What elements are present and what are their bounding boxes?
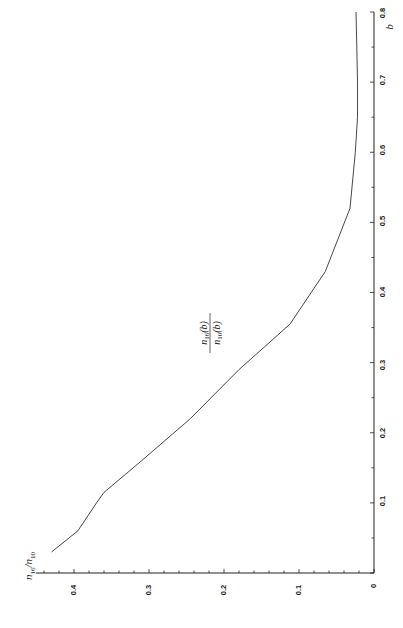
value-tick-label: 0.3 [144,585,153,595]
ratio-curve [52,12,358,552]
value-tick-label: 0 [369,584,378,588]
svg-text:n10(b): n10(b) [211,321,224,345]
b-axis-ticks [370,12,374,573]
value-tick-label: 0.1 [294,585,303,595]
b-axis-tick-labels: 0.1 0.2 0.3 0.4 0.5 0.6 0.7 0.8 [378,8,387,506]
value-tick-label: 0.2 [219,585,228,595]
value-axis-ticks [44,569,374,573]
b-tick-label: 0.4 [378,286,387,297]
b-tick-label: 0.6 [378,145,387,155]
b-tick-label: 0.2 [378,428,387,438]
value-axis-tick-labels: 0 0.1 0.2 0.3 0.4 [69,584,378,595]
b-tick-label: 0.5 [378,216,387,226]
b-axis-title: b [383,24,395,30]
b-tick-label: 0.3 [378,360,387,370]
value-tick-label: 0.4 [69,584,78,595]
b-tick-label: 0.1 [378,496,387,506]
value-axis-title: n16/n10 [22,551,37,580]
b-tick-label: 0.7 [378,75,387,85]
svg-text:n16(b): n16(b) [198,321,211,345]
b-tick-label: 0.8 [378,8,387,18]
curve-annotation: n16(b) n10(b) [198,313,224,353]
chart: 0.1 0.2 0.3 0.4 0.5 0.6 0.7 0.8 b 0 0.1 … [0,0,403,628]
